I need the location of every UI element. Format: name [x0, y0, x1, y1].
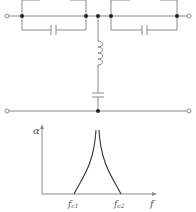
- terminal-output-top: [187, 14, 191, 18]
- left-cap-wire-r: [56, 16, 86, 30]
- right-top-wire-r: [160, 0, 177, 16]
- tick-label-fc1: fc1: [67, 199, 79, 209]
- left-top-wire-r: [70, 0, 86, 16]
- right-parallel-lc: [111, 0, 177, 35]
- inductor-icon: [98, 41, 103, 65]
- junction-dot: [84, 14, 88, 18]
- left-parallel-lc: [22, 0, 86, 35]
- curve-right: [99, 130, 121, 194]
- right-top-wire: [111, 0, 130, 16]
- terminal-input-bottom: [5, 109, 9, 113]
- curve-left: [74, 130, 96, 194]
- junction-dot: [175, 14, 179, 18]
- circuit-schematic: α f fc1 fc2: [0, 0, 196, 212]
- x-axis-label: f: [149, 198, 156, 209]
- y-axis-label: α: [33, 125, 40, 136]
- terminal-input-top: [5, 14, 9, 18]
- filter-diagram: α f fc1 fc2: [0, 0, 196, 212]
- junction-dot: [109, 14, 113, 18]
- terminal-output-bottom: [187, 109, 191, 113]
- junction-dot: [20, 14, 24, 18]
- shunt-series-lc: [92, 16, 104, 111]
- right-cap-wire-r: [147, 16, 177, 30]
- left-top-wire: [22, 0, 40, 16]
- left-cap-wire-l: [22, 16, 51, 30]
- attenuation-plot: α f fc1 fc2: [33, 124, 157, 209]
- junction-dot: [96, 109, 100, 113]
- y-axis-arrow-icon: [40, 124, 44, 129]
- right-cap-wire-l: [111, 16, 142, 30]
- junction-dot: [96, 14, 100, 18]
- tick-label-fc2: fc2: [113, 199, 125, 209]
- x-axis-arrow-icon: [152, 192, 157, 196]
